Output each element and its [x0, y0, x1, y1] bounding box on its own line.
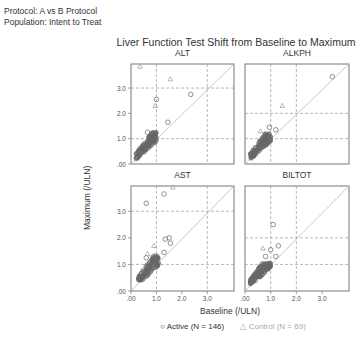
svg-text:3.0: 3.0 — [117, 208, 126, 215]
svg-text:2.0: 2.0 — [177, 295, 186, 302]
svg-text:3.0: 3.0 — [203, 295, 212, 302]
scatter-panels: .001.02.03.0.001.02.03.0.001.02.03.0.001… — [0, 0, 362, 350]
svg-text:2.0: 2.0 — [117, 110, 126, 117]
svg-text:3.0: 3.0 — [117, 85, 126, 92]
svg-text:2.0: 2.0 — [117, 234, 126, 241]
svg-text:.00: .00 — [117, 288, 126, 295]
svg-text:2.0: 2.0 — [292, 295, 301, 302]
svg-text:1.0: 1.0 — [152, 295, 161, 302]
svg-text:.00: .00 — [126, 295, 135, 302]
svg-text:.00: .00 — [240, 295, 249, 302]
svg-text:.00: .00 — [117, 161, 126, 168]
svg-text:1.0: 1.0 — [266, 295, 275, 302]
svg-text:1.0: 1.0 — [117, 135, 126, 142]
svg-text:1.0: 1.0 — [117, 261, 126, 268]
svg-text:3.0: 3.0 — [318, 295, 327, 302]
